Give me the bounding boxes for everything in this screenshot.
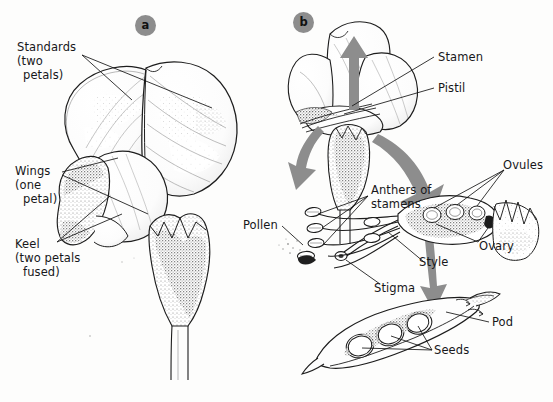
label-anthers-line1: Anthers of: [371, 184, 432, 198]
label-standards-line1: Standards: [17, 41, 76, 55]
label-style: Style: [419, 256, 448, 270]
label-standards-line3: petals): [23, 69, 63, 83]
label-seeds: Seeds: [434, 344, 469, 358]
label-wings-line1: Wings: [15, 165, 50, 179]
label-stamen: Stamen: [438, 51, 483, 65]
panel-a-drawing: [57, 62, 237, 380]
botanical-figure: a b Standards (two petals) Wings (one pe…: [0, 0, 553, 402]
panel-badge-a: a: [135, 15, 156, 36]
label-wings-line3: petal): [23, 193, 57, 207]
label-ovary: Ovary: [479, 240, 514, 254]
label-ovules: Ovules: [503, 159, 543, 173]
label-pollen: Pollen: [243, 219, 278, 233]
label-standards-line2: (two: [17, 55, 43, 69]
label-wings-line2: (one: [15, 179, 41, 193]
label-stigma: Stigma: [374, 282, 415, 296]
label-pistil: Pistil: [438, 82, 465, 96]
label-keel-line2: (two petals: [15, 252, 80, 266]
label-anthers-line2: stamens: [371, 198, 421, 212]
panel-badge-b: b: [293, 12, 314, 33]
label-keel-line1: Keel: [15, 238, 40, 252]
pod-drawing: [302, 292, 500, 374]
label-pod: Pod: [492, 316, 513, 330]
label-keel-line3: fused): [23, 266, 60, 280]
